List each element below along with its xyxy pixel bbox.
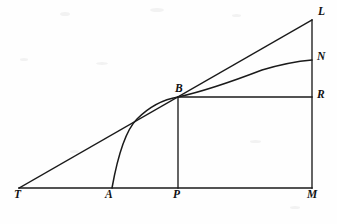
logarithmic-curve-abn [112, 60, 312, 188]
point-label-b: B [175, 83, 183, 95]
tangent-line-tl [19, 20, 312, 188]
point-label-r: R [317, 89, 325, 101]
geometry-figure: T A P M B R N L [0, 0, 337, 224]
point-label-a: A [105, 189, 113, 201]
point-label-m: M [307, 189, 317, 201]
point-label-n: N [317, 51, 325, 63]
point-label-l: L [318, 6, 325, 18]
point-label-t: T [14, 189, 21, 201]
point-label-p: P [173, 189, 180, 201]
diagram-canvas [0, 0, 337, 224]
